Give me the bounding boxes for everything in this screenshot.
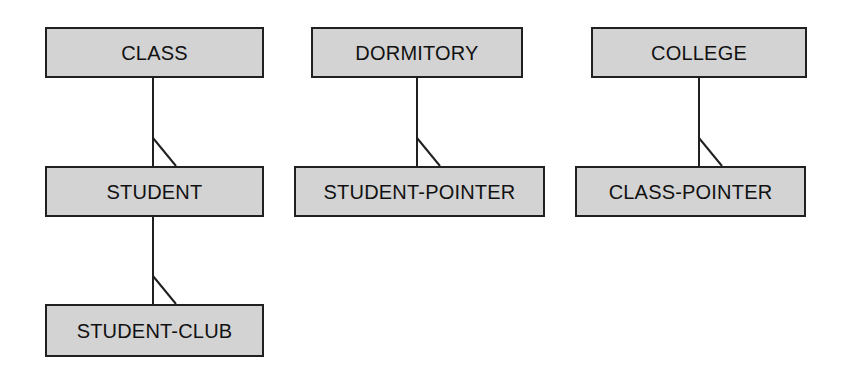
entity-box-student-pointer[interactable]: STUDENT-POINTER <box>294 166 545 217</box>
entity-label-dormitory: DORMITORY <box>355 43 478 63</box>
connector-branch-dormitory-to-student-pointer <box>417 138 440 166</box>
connector-branch-college-to-class-pointer <box>699 138 722 166</box>
entity-label-class: CLASS <box>121 43 188 63</box>
entity-box-dormitory[interactable]: DORMITORY <box>311 27 523 78</box>
entity-label-student-pointer: STUDENT-POINTER <box>324 182 516 202</box>
entity-label-student: STUDENT <box>107 182 203 202</box>
entity-box-student[interactable]: STUDENT <box>45 166 264 217</box>
diagram-canvas: CLASS STUDENT STUDENT-CLUB DORMITORY STU… <box>0 0 863 378</box>
connector-branch-student-to-student-club <box>153 276 176 304</box>
entity-label-college: COLLEGE <box>651 43 747 63</box>
connector-branch-class-to-student <box>153 138 176 166</box>
entity-label-student-club: STUDENT-CLUB <box>77 321 233 341</box>
entity-box-class-pointer[interactable]: CLASS-POINTER <box>575 166 806 217</box>
entity-box-student-club[interactable]: STUDENT-CLUB <box>45 304 264 357</box>
entity-box-class[interactable]: CLASS <box>45 27 264 78</box>
entity-box-college[interactable]: COLLEGE <box>591 27 807 78</box>
entity-label-class-pointer: CLASS-POINTER <box>609 182 773 202</box>
